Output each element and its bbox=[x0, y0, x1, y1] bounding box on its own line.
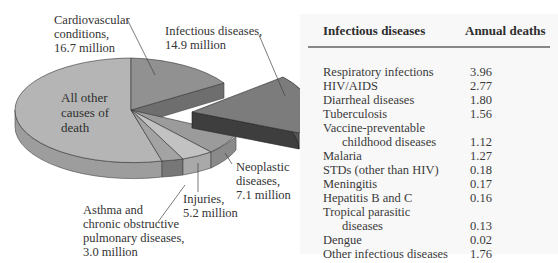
label-line: Cardiovascular bbox=[54, 13, 130, 27]
table-row-continued: diseases0.13 bbox=[323, 219, 553, 233]
label-line: 16.7 million bbox=[54, 41, 130, 55]
death-count-empty bbox=[470, 121, 530, 135]
infectious-diseases-table: Infectious diseases Annual deaths Respir… bbox=[300, 14, 558, 254]
table-header-deaths: Annual deaths bbox=[465, 23, 546, 39]
table-row: Vaccine-preventable bbox=[323, 121, 553, 135]
disease-name: Tropical parasitic bbox=[323, 205, 470, 219]
death-count: 0.18 bbox=[470, 163, 530, 177]
table-row: HIV/AIDS2.77 bbox=[323, 79, 553, 93]
disease-name: Meningitis bbox=[323, 177, 470, 191]
label-asthma: Asthma and chronic obstructive pulmonary… bbox=[83, 203, 184, 259]
header-divider bbox=[308, 46, 550, 48]
label-line: 3.0 million bbox=[83, 245, 184, 259]
death-count-empty bbox=[470, 205, 530, 219]
table-row-continued: childhood diseases1.12 bbox=[323, 135, 553, 149]
label-line: Neoplastic bbox=[236, 160, 291, 174]
label-line: chronic obstructive bbox=[83, 217, 184, 231]
table-row: Diarrheal diseases1.80 bbox=[323, 93, 553, 107]
table-row: Tuberculosis1.56 bbox=[323, 107, 553, 121]
label-line: Asthma and bbox=[83, 203, 184, 217]
disease-name: Hepatitis B and C bbox=[323, 191, 470, 205]
disease-name: STDs (other than HIV) bbox=[323, 163, 470, 177]
disease-name: Other infectious diseases bbox=[323, 247, 470, 261]
label-line: 5.2 million bbox=[183, 206, 238, 220]
death-count: 1.76 bbox=[470, 247, 530, 261]
label-line: All other bbox=[61, 90, 109, 105]
label-all-other: All other causes of death bbox=[61, 90, 109, 135]
label-infectious: Infectious diseases, 14.9 million bbox=[165, 24, 262, 52]
death-count: 1.80 bbox=[470, 93, 530, 107]
table-body: Respiratory infections3.96 HIV/AIDS2.77 … bbox=[323, 65, 553, 261]
disease-name: Vaccine-preventable bbox=[323, 121, 470, 135]
table-row: Malaria1.27 bbox=[323, 149, 553, 163]
death-count: 1.56 bbox=[470, 107, 530, 121]
disease-name: Tuberculosis bbox=[323, 107, 470, 121]
table-row: Respiratory infections3.96 bbox=[323, 65, 553, 79]
disease-name: Malaria bbox=[323, 149, 470, 163]
death-count: 1.27 bbox=[470, 149, 530, 163]
slice-side-asthma bbox=[162, 159, 183, 177]
disease-name: Dengue bbox=[323, 233, 470, 247]
label-cardiovascular: Cardiovascular conditions, 16.7 million bbox=[54, 13, 130, 55]
table-row: Tropical parasitic bbox=[323, 205, 553, 219]
death-count: 0.02 bbox=[470, 233, 530, 247]
disease-name: diseases bbox=[323, 219, 470, 233]
disease-name: Diarrheal diseases bbox=[323, 93, 470, 107]
table-row: Meningitis0.17 bbox=[323, 177, 553, 191]
table-row: STDs (other than HIV)0.18 bbox=[323, 163, 553, 177]
table-row: Other infectious diseases1.76 bbox=[323, 247, 553, 261]
label-injuries: Injuries, 5.2 million bbox=[183, 192, 238, 220]
death-count: 0.13 bbox=[470, 219, 530, 233]
label-line: pulmonary diseases, bbox=[83, 231, 184, 245]
death-count: 0.17 bbox=[470, 177, 530, 191]
disease-name: Respiratory infections bbox=[323, 65, 470, 79]
disease-name: HIV/AIDS bbox=[323, 79, 470, 93]
table-header-disease: Infectious diseases bbox=[323, 23, 425, 39]
table-row: Hepatitis B and C0.16 bbox=[323, 191, 553, 205]
death-count: 1.12 bbox=[470, 135, 530, 149]
label-line: Infectious diseases, bbox=[165, 24, 262, 38]
label-line: causes of bbox=[61, 105, 109, 120]
label-line: death bbox=[61, 120, 109, 135]
label-line: Injuries, bbox=[183, 192, 238, 206]
death-count: 0.16 bbox=[470, 191, 530, 205]
disease-name: childhood diseases bbox=[323, 135, 470, 149]
label-line: conditions, bbox=[54, 27, 130, 41]
label-line: 7.1 million bbox=[236, 188, 291, 202]
death-count: 3.96 bbox=[470, 65, 530, 79]
label-line: 14.9 million bbox=[165, 38, 262, 52]
table-row: Dengue0.02 bbox=[323, 233, 553, 247]
label-neoplastic: Neoplastic diseases, 7.1 million bbox=[236, 160, 291, 202]
label-line: diseases, bbox=[236, 174, 291, 188]
death-count: 2.77 bbox=[470, 79, 530, 93]
